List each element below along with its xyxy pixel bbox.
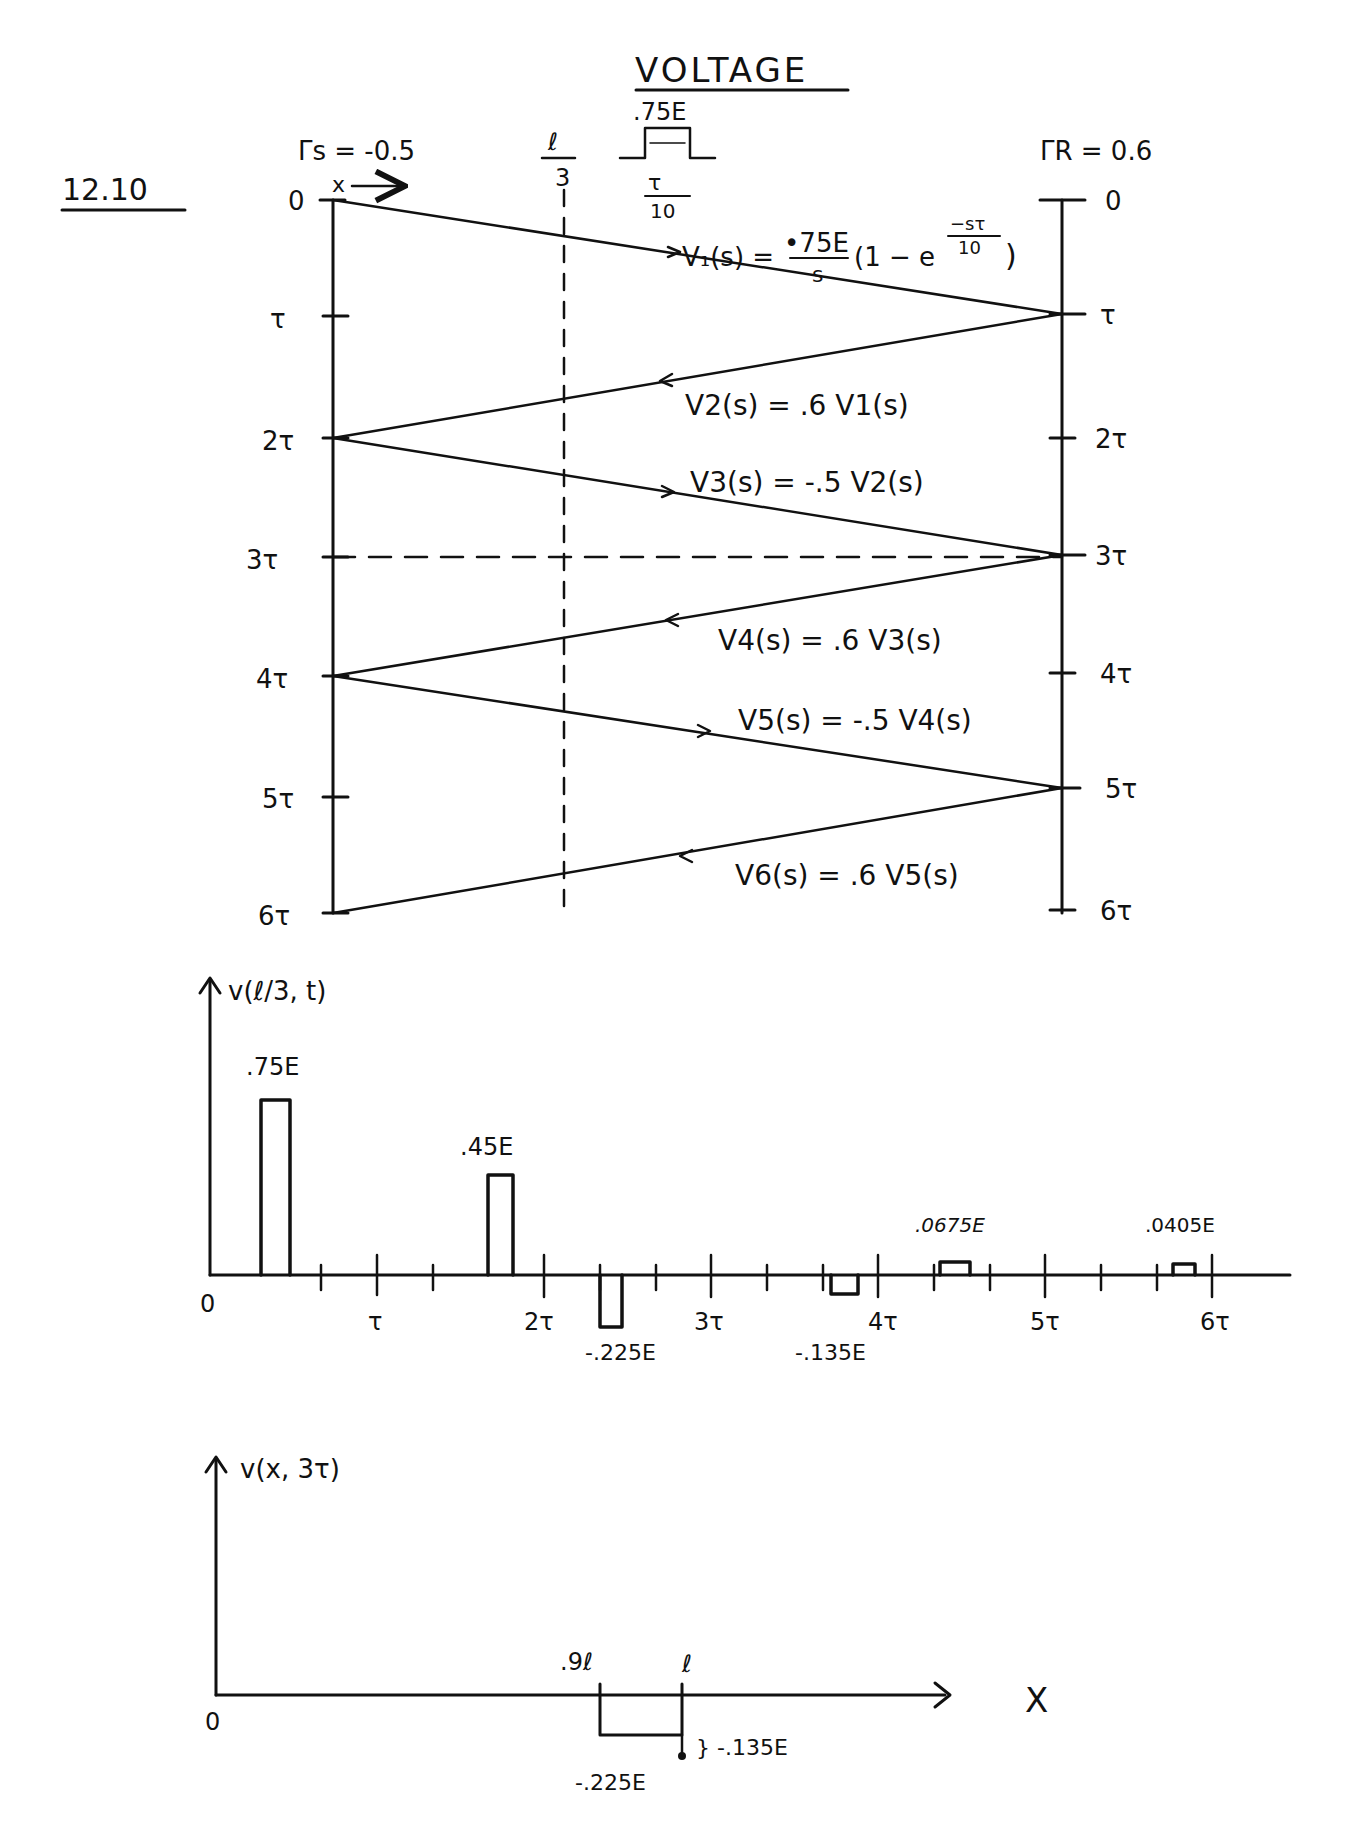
svg-text:6τ: 6τ (1200, 1308, 1230, 1336)
pulse-5 (940, 1262, 970, 1275)
wave-label-v2: V2(s) = .6 V1(s) (685, 389, 909, 422)
svg-text:10: 10 (958, 237, 981, 258)
svg-text:v(ℓ/3, t): v(ℓ/3, t) (228, 976, 326, 1006)
svg-text:3τ: 3τ (694, 1308, 724, 1336)
svg-text:τ: τ (648, 170, 661, 195)
svg-text:VOLTAGE: VOLTAGE (635, 50, 808, 90)
voltage-segment (600, 1684, 682, 1735)
chart-voltage-vs-position: v(x, 3τ) X 0 .9ℓ ℓ -.225E } -.135E (205, 1454, 1048, 1795)
svg-text:): ) (1005, 238, 1017, 273)
source-pulse-icon: .75E τ 10 (620, 98, 715, 223)
pulse-1 (261, 1100, 290, 1275)
svg-text:4τ: 4τ (256, 664, 288, 694)
pulse-2 (488, 1175, 513, 1275)
wave-label-v1: V₁(s) = •75E s (1 − e −sτ 10 ) (682, 213, 1017, 287)
wave-label-v4: V4(s) = .6 V3(s) (718, 624, 942, 657)
svg-text:-.225E: -.225E (575, 1770, 646, 1795)
title: VOLTAGE (635, 50, 848, 90)
svg-text:12.10: 12.10 (62, 172, 148, 207)
gamma-load-label: ΓR = 0.6 (1040, 136, 1152, 166)
x-axis-label: X (1025, 1680, 1048, 1720)
svg-text:0: 0 (205, 1708, 220, 1736)
svg-text:2τ: 2τ (524, 1308, 554, 1336)
wave-label-v3: V3(s) = -.5 V2(s) (690, 466, 924, 499)
svg-text:5τ: 5τ (262, 784, 294, 814)
svg-text:x: x (332, 172, 345, 197)
svg-text:ℓ: ℓ (681, 1650, 692, 1678)
svg-text:.75E: .75E (633, 98, 686, 126)
svg-text:τ: τ (1100, 300, 1116, 330)
pulse-3 (600, 1275, 622, 1327)
svg-text:τ: τ (368, 1308, 382, 1336)
svg-text:-.225E: -.225E (585, 1340, 656, 1365)
svg-text:-.135E: -.135E (795, 1340, 866, 1365)
x-direction-arrow: x (332, 172, 405, 197)
svg-text:.45E: .45E (460, 1133, 513, 1161)
svg-text:.0405E: .0405E (1145, 1213, 1215, 1237)
svg-text:V₁(s) =: V₁(s) = (682, 242, 774, 272)
observation-point-label: ℓ 3 (542, 128, 575, 192)
svg-text:3: 3 (555, 164, 570, 192)
svg-text:10: 10 (650, 199, 675, 223)
pulse-6 (1173, 1264, 1195, 1275)
svg-text:.75E: .75E (246, 1053, 299, 1081)
svg-text:.0675E: .0675E (915, 1213, 985, 1237)
svg-text:.9ℓ: .9ℓ (560, 1648, 593, 1676)
svg-text:0: 0 (200, 1290, 215, 1318)
svg-text:6τ: 6τ (1100, 896, 1132, 926)
svg-text:4τ: 4τ (868, 1308, 898, 1336)
svg-text:0: 0 (1105, 186, 1122, 216)
svg-text:5τ: 5τ (1030, 1308, 1060, 1336)
svg-text:3τ: 3τ (1095, 541, 1127, 571)
pulse-4 (831, 1275, 858, 1294)
svg-text:•75E: •75E (784, 228, 849, 258)
chart-voltage-vs-time: v(ℓ/3, t) 0 τ 2τ 3τ 4τ 5τ 6τ (200, 976, 1290, 1365)
svg-text:−sτ: −sτ (950, 213, 985, 234)
wave-label-v6: V6(s) = .6 V5(s) (735, 859, 959, 892)
svg-text:3τ: 3τ (246, 545, 278, 575)
svg-text:ℓ: ℓ (547, 128, 558, 156)
svg-text:6τ: 6τ (258, 901, 290, 931)
svg-text:(1 − e: (1 − e (854, 242, 935, 272)
svg-text:5τ: 5τ (1105, 774, 1137, 804)
svg-text:0: 0 (288, 186, 305, 216)
problem-number: 12.10 (62, 172, 185, 210)
svg-text:4τ: 4τ (1100, 659, 1132, 689)
svg-text:τ: τ (270, 304, 286, 334)
svg-text:} -.135E: } -.135E (696, 1735, 788, 1760)
svg-text:2τ: 2τ (1095, 424, 1127, 454)
wave-label-v5: V5(s) = -.5 V4(s) (738, 704, 972, 737)
svg-text:2τ: 2τ (262, 426, 294, 456)
diagram-canvas: 12.10 VOLTAGE .75E τ 10 Γs = -0.5 ΓR = 0… (0, 0, 1355, 1838)
svg-text:s: s (812, 262, 823, 287)
svg-text:v(x, 3τ): v(x, 3τ) (240, 1454, 340, 1484)
gamma-source-label: Γs = -0.5 (298, 136, 415, 166)
